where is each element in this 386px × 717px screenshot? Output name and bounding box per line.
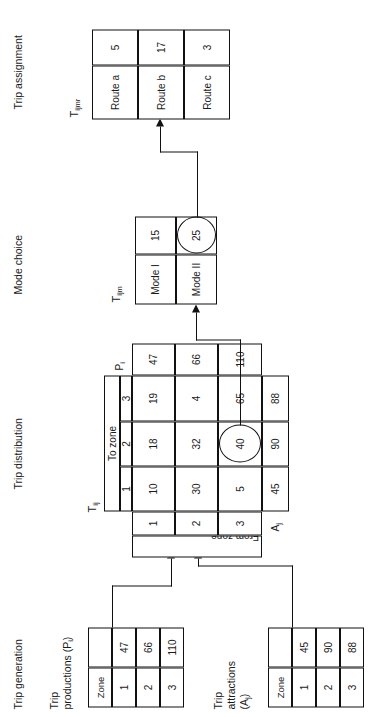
- trip-assignment-label: Tijmr: [68, 98, 82, 117]
- connector-mode-v1: [160, 151, 198, 152]
- matrix-label-main: T: [86, 505, 98, 512]
- trip-productions-caption-close: ): [61, 636, 73, 640]
- mode-choice-row-name-1: Mode I: [135, 254, 176, 304]
- trip-assignment-row-name-1: Route a: [92, 65, 138, 119]
- matrix-highlight-circle: [219, 424, 261, 462]
- matrix-aj-label: Aj: [270, 523, 283, 531]
- matrix-label-sub: ij: [91, 502, 100, 505]
- matrix-cell-1-1: 10: [132, 466, 175, 511]
- trip-attractions-caption-close: ): [238, 693, 250, 697]
- figure-root: Trip generation Trip distribution Mode c…: [0, 0, 386, 717]
- trip-productions-row-zone-3: 3: [160, 667, 184, 707]
- matrix-row-header-3: 3: [218, 511, 262, 535]
- trip-attractions-header-blank: [268, 627, 292, 667]
- matrix-aj-label-sub: j: [274, 523, 283, 525]
- trip-productions-row-zone-2: 2: [136, 667, 160, 707]
- connector-productions-h1: [112, 585, 113, 627]
- mode-choice-row-name-2: Mode II: [176, 254, 217, 304]
- matrix-pi-label-sub: i: [118, 362, 127, 364]
- trip-attractions-row-zone-2: 2: [316, 667, 340, 707]
- matrix-row-header-1: 1: [132, 511, 175, 535]
- connector-attractions-h1: [292, 565, 293, 627]
- matrix-cell-1-2: 18: [132, 421, 175, 466]
- trip-attractions-row-zone-3: 3: [340, 667, 364, 707]
- trip-attractions-caption-line1: Trip: [212, 691, 224, 709]
- matrix-row-header-2: 2: [175, 511, 218, 535]
- trip-attractions-row-value-2: 90: [316, 627, 340, 667]
- matrix-col-total-1: 45: [262, 466, 289, 511]
- matrix-cell-2-3: 4: [175, 375, 218, 421]
- matrix-col-header-2: 2: [120, 421, 132, 466]
- trip-attractions-row-zone-1: 1: [292, 667, 316, 707]
- trip-productions-header-blank: [88, 627, 112, 667]
- trip-attractions-caption: Trip attractions (Aj): [212, 661, 254, 709]
- trip-assignment-label-sub: ijmr: [73, 98, 82, 110]
- section-heading-trip-distribution: Trip distribution: [12, 418, 24, 489]
- trip-productions-row-zone-1: 1: [112, 667, 136, 707]
- connector-productions-v1: [112, 585, 172, 586]
- trip-productions-row-value-1: 47: [112, 627, 136, 667]
- trip-attractions-row-value-3: 88: [340, 627, 364, 667]
- matrix-pi-label-main: P: [114, 363, 125, 370]
- trip-assignment-row-name-3: Route c: [184, 65, 230, 119]
- matrix-cell-1-3: 19: [132, 375, 175, 421]
- mode-choice-label: Tijm: [110, 286, 124, 302]
- trip-assignment-row-name-2: Route b: [138, 65, 184, 119]
- trip-productions-caption-line1: Trip: [48, 691, 60, 709]
- diagram-stage: Trip generation Trip distribution Mode c…: [0, 0, 386, 717]
- trip-productions-caption-line2: productions (P: [61, 641, 73, 709]
- matrix-col-header-1: 1: [120, 466, 132, 511]
- matrix-cell-2-1: 30: [175, 466, 218, 511]
- mode-choice-label-main: T: [110, 295, 122, 302]
- connector-distribution-h2: [196, 312, 197, 340]
- matrix-to-zone-band: To zone: [104, 375, 120, 511]
- matrix-col-total-2: 90: [262, 421, 289, 466]
- connector-mode-h2: [160, 126, 161, 152]
- mode-choice-highlight-circle: [177, 216, 216, 253]
- trip-productions-caption: Trip productions (Pi): [48, 636, 77, 709]
- section-heading-mode-choice: Mode choice: [12, 234, 24, 294]
- connector-productions-h2: [171, 558, 172, 586]
- trip-productions-row-value-3: 110: [160, 627, 184, 667]
- matrix-col-header-3: 3: [120, 375, 132, 421]
- connector-attractions-h2: [198, 558, 199, 566]
- matrix-cell-3-1: 5: [218, 466, 262, 511]
- matrix-pi-label: Pi: [114, 362, 127, 370]
- mode-choice-label-sub: ijm: [115, 286, 124, 296]
- section-heading-trip-generation: Trip generation: [12, 639, 24, 709]
- trip-attractions-caption-line2: attractions: [225, 661, 237, 709]
- matrix-row-total-2: 66: [175, 343, 218, 375]
- matrix-aj-label-main: A: [270, 524, 281, 531]
- matrix-row-total-1: 47: [132, 343, 175, 375]
- connector-distribution-h1: [240, 339, 241, 425]
- connector-attractions-v1: [198, 565, 293, 566]
- matrix-cell-2-2: 32: [175, 421, 218, 466]
- trip-assignment-row-value-1: 5: [92, 29, 138, 65]
- matrix-col-total-3: 88: [262, 375, 289, 421]
- trip-attractions-caption-line3: (A: [238, 699, 250, 710]
- connector-distribution-v1: [196, 339, 241, 340]
- trip-productions-row-value-2: 66: [136, 627, 160, 667]
- matrix-label: Tij: [86, 502, 100, 512]
- trip-assignment-row-value-2: 17: [138, 29, 184, 65]
- trip-assignment-label-main: T: [68, 110, 80, 117]
- connector-distribution-arrow: [192, 304, 200, 312]
- section-heading-trip-assignment: Trip assignment: [12, 35, 24, 109]
- trip-productions-header-zone: Zone: [88, 667, 112, 707]
- mode-choice-row-value-1: 15: [135, 216, 176, 254]
- connector-mode-h1: [197, 151, 198, 217]
- trip-attractions-row-value-1: 45: [292, 627, 316, 667]
- trip-attractions-header-zone: Zone: [268, 667, 292, 707]
- trip-assignment-row-value-3: 3: [184, 29, 230, 65]
